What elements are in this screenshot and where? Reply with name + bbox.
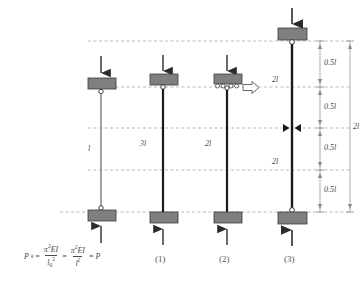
formula-equals-2: = — [62, 252, 67, 261]
column-2-group — [214, 55, 259, 245]
formula-frac2-l-exp: 2 — [78, 257, 81, 263]
column-2-top-block — [214, 74, 242, 84]
column-2-caption: (2) — [219, 255, 230, 264]
reference-lines — [60, 41, 352, 212]
column-3-group — [278, 8, 307, 246]
column-1-top-pin — [161, 85, 165, 89]
formula-frac1-EI: EI — [51, 245, 59, 254]
column-2-top-pin — [225, 86, 229, 90]
column-2-length-label: 2l — [205, 140, 211, 148]
column-3-length-label-lower: 2l — [272, 158, 278, 166]
column-1-group — [150, 55, 178, 245]
column-buckling-figure: l 3l 2l 2l 2l 0.5l 0.5l 0.5l 0.5l 2l (1)… — [0, 0, 363, 283]
column-1-top-block — [150, 74, 178, 85]
segment-label-2: 0.5l — [324, 103, 336, 111]
formula-frac2-EI: EI — [77, 246, 85, 255]
formula-lhs-subscript: k — [31, 253, 33, 259]
column-3-caption: (3) — [284, 255, 295, 264]
overall-dimension-label: 2l — [353, 123, 359, 131]
column-0-length-label: l — [88, 145, 90, 153]
column-0-bottom-pin — [99, 206, 103, 210]
segment-dimension-chain — [316, 41, 324, 212]
formula-fraction-2: π2EI l2 — [69, 245, 87, 267]
figure-canvas — [0, 0, 363, 283]
segment-label-3: 0.5l — [324, 144, 336, 152]
column-3-top-block — [278, 28, 307, 40]
formula-equals-3: = — [89, 252, 94, 261]
formula-equals-1: = — [35, 252, 40, 261]
column-0-top-block — [88, 78, 116, 89]
segment-label-4: 0.5l — [324, 186, 336, 194]
column-1-bottom-fixed-block — [150, 212, 178, 223]
formula-frac1-l-sub: 0 — [49, 262, 52, 268]
formula-frac2-numerator: π2EI — [69, 245, 87, 256]
formula-frac2-denominator: l2 — [73, 256, 82, 268]
formula-frac1-l-exp: 2 — [52, 256, 55, 262]
column-2-lateral-force-arrow — [243, 82, 259, 94]
column-3-bottom-block — [278, 212, 307, 224]
column-3-top-pin — [290, 40, 295, 45]
column-2-bottom-fixed-block — [214, 212, 242, 223]
segment-label-1: 0.5l — [324, 59, 336, 67]
column-0-bottom-block — [88, 210, 116, 221]
formula-result: P — [96, 252, 101, 261]
column-1-length-label: 3l — [140, 140, 146, 148]
column-3-length-label-upper: 2l — [272, 76, 278, 84]
formula-lhs-symbol: P — [24, 252, 29, 261]
critical-load-formula: Pk = π2EI l02 = π2EI l2 = P — [24, 244, 100, 268]
formula-frac1-numerator: π2EI — [42, 244, 60, 255]
column-0-top-pin — [99, 89, 103, 93]
column-1-caption: (1) — [155, 255, 166, 264]
formula-fraction-1: π2EI l02 — [42, 244, 60, 268]
column-0-group — [88, 56, 116, 243]
formula-frac1-denominator: l02 — [45, 255, 57, 269]
